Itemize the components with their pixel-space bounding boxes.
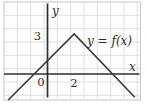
x-axis-label: x: [129, 60, 136, 74]
y-axis-label: y: [51, 4, 59, 18]
graph-canvas: y x 3 0 2 y = f(x): [0, 0, 147, 109]
origin-label: 0: [37, 75, 44, 89]
function-graph-figure: y x 3 0 2 y = f(x): [0, 0, 147, 109]
curve-label: y = f(x): [86, 34, 132, 48]
y-tick-label-3: 3: [34, 29, 41, 43]
x-tick-label-2: 2: [70, 76, 77, 90]
